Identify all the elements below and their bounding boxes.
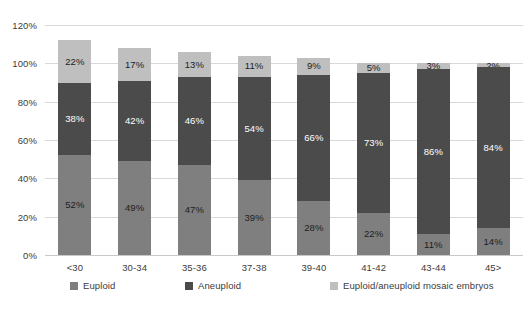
- bar-group[interactable]: 39%54%11%: [238, 25, 271, 255]
- bar-value-label: 3%: [426, 63, 440, 69]
- bar-segment-aneuploid[interactable]: 42%: [118, 81, 151, 162]
- bar-segment-euploid[interactable]: 49%: [118, 161, 151, 255]
- legend-swatch-icon: [70, 282, 78, 290]
- bar-segment-mosaic[interactable]: 5%: [357, 63, 390, 73]
- legend-swatch-icon: [185, 282, 193, 290]
- bar-value-label: 9%: [307, 61, 321, 71]
- legend-item[interactable]: Euploid: [70, 281, 115, 291]
- bar-value-label: 84%: [483, 143, 502, 153]
- bar-value-label: 28%: [304, 223, 323, 233]
- bar-segment-mosaic[interactable]: 22%: [58, 40, 91, 82]
- bar-segment-mosaic[interactable]: 13%: [178, 52, 211, 77]
- bar-segment-aneuploid[interactable]: 54%: [238, 77, 271, 181]
- bar-value-label: 22%: [364, 229, 383, 239]
- bar-value-label: 66%: [304, 133, 323, 143]
- bar-group[interactable]: 52%38%22%: [58, 25, 91, 255]
- bar-group[interactable]: 47%46%13%: [178, 25, 211, 255]
- y-tick-label: 20%: [0, 211, 37, 222]
- stacked-bar-chart: 0%20%40%60%80%100%120% 52%38%22%49%42%17…: [0, 0, 529, 309]
- bar-value-label: 42%: [125, 116, 144, 126]
- legend-label: Euploid: [83, 281, 115, 291]
- gridline: [45, 140, 523, 141]
- y-tick-label: 0%: [0, 250, 37, 261]
- bar-group[interactable]: 14%84%2%: [477, 25, 510, 255]
- legend-item[interactable]: Aneuploid: [185, 281, 241, 291]
- y-tick-label: 40%: [0, 173, 37, 184]
- gridline: [45, 25, 523, 26]
- gridline: [45, 255, 523, 256]
- y-tick-label: 100%: [0, 58, 37, 69]
- bar-segment-euploid[interactable]: 52%: [58, 155, 91, 255]
- bar-segment-euploid[interactable]: 47%: [178, 165, 211, 255]
- bar-segment-mosaic[interactable]: 2%: [477, 63, 510, 67]
- y-tick-label: 80%: [0, 96, 37, 107]
- legend-label: Aneuploid: [198, 281, 241, 291]
- bar-segment-aneuploid[interactable]: 46%: [178, 77, 211, 165]
- bar-value-label: 47%: [185, 205, 204, 215]
- bar-group[interactable]: 28%66%9%: [297, 25, 330, 255]
- bar-segment-mosaic[interactable]: 11%: [238, 56, 271, 77]
- bar-segment-euploid[interactable]: 22%: [357, 213, 390, 255]
- bar-value-label: 22%: [65, 57, 84, 67]
- bar-segment-euploid[interactable]: 39%: [238, 180, 271, 255]
- bar-segment-aneuploid[interactable]: 66%: [297, 75, 330, 202]
- bar-value-label: 17%: [125, 60, 144, 70]
- legend-label: Euploid/aneuploid mosaic embryos: [343, 281, 494, 291]
- bar-segment-aneuploid[interactable]: 84%: [477, 67, 510, 228]
- plot-area: 52%38%22%49%42%17%47%46%13%39%54%11%28%6…: [45, 25, 523, 255]
- bar-segment-euploid[interactable]: 28%: [297, 201, 330, 255]
- bar-segment-aneuploid[interactable]: 38%: [58, 83, 91, 156]
- bar-segment-euploid[interactable]: 11%: [417, 234, 450, 255]
- legend-swatch-icon: [330, 282, 338, 290]
- bar-value-label: 13%: [185, 60, 204, 70]
- gridline: [45, 217, 523, 218]
- bar-group[interactable]: 22%73%5%: [357, 25, 390, 255]
- y-tick-label: 60%: [0, 135, 37, 146]
- bar-group[interactable]: 11%86%3%: [417, 25, 450, 255]
- bar-segment-aneuploid[interactable]: 86%: [417, 69, 450, 234]
- bar-value-label: 38%: [65, 114, 84, 124]
- x-tick-label: 45>: [458, 262, 528, 273]
- gridline: [45, 63, 523, 64]
- bar-value-label: 52%: [65, 200, 84, 210]
- y-tick-label: 120%: [0, 20, 37, 31]
- bar-value-label: 2%: [486, 63, 500, 67]
- legend-item[interactable]: Euploid/aneuploid mosaic embryos: [330, 281, 494, 291]
- bar-value-label: 73%: [364, 138, 383, 148]
- bar-segment-mosaic[interactable]: 9%: [297, 58, 330, 75]
- bar-value-label: 39%: [244, 213, 263, 223]
- bar-segment-mosaic[interactable]: 17%: [118, 48, 151, 81]
- bar-group[interactable]: 49%42%17%: [118, 25, 151, 255]
- gridline: [45, 178, 523, 179]
- bar-value-label: 14%: [483, 237, 502, 247]
- bar-value-label: 46%: [185, 116, 204, 126]
- gridline: [45, 102, 523, 103]
- bar-value-label: 11%: [424, 240, 443, 250]
- bar-value-label: 86%: [424, 147, 443, 157]
- bar-segment-aneuploid[interactable]: 73%: [357, 73, 390, 213]
- bar-value-label: 11%: [245, 61, 264, 71]
- bar-value-label: 54%: [244, 124, 263, 134]
- bar-value-label: 49%: [125, 203, 144, 213]
- bar-segment-euploid[interactable]: 14%: [477, 228, 510, 255]
- bar-value-label: 5%: [367, 63, 381, 73]
- bar-segment-mosaic[interactable]: 3%: [417, 63, 450, 69]
- chart-legend: EuploidAneuploidEuploid/aneuploid mosaic…: [0, 281, 529, 297]
